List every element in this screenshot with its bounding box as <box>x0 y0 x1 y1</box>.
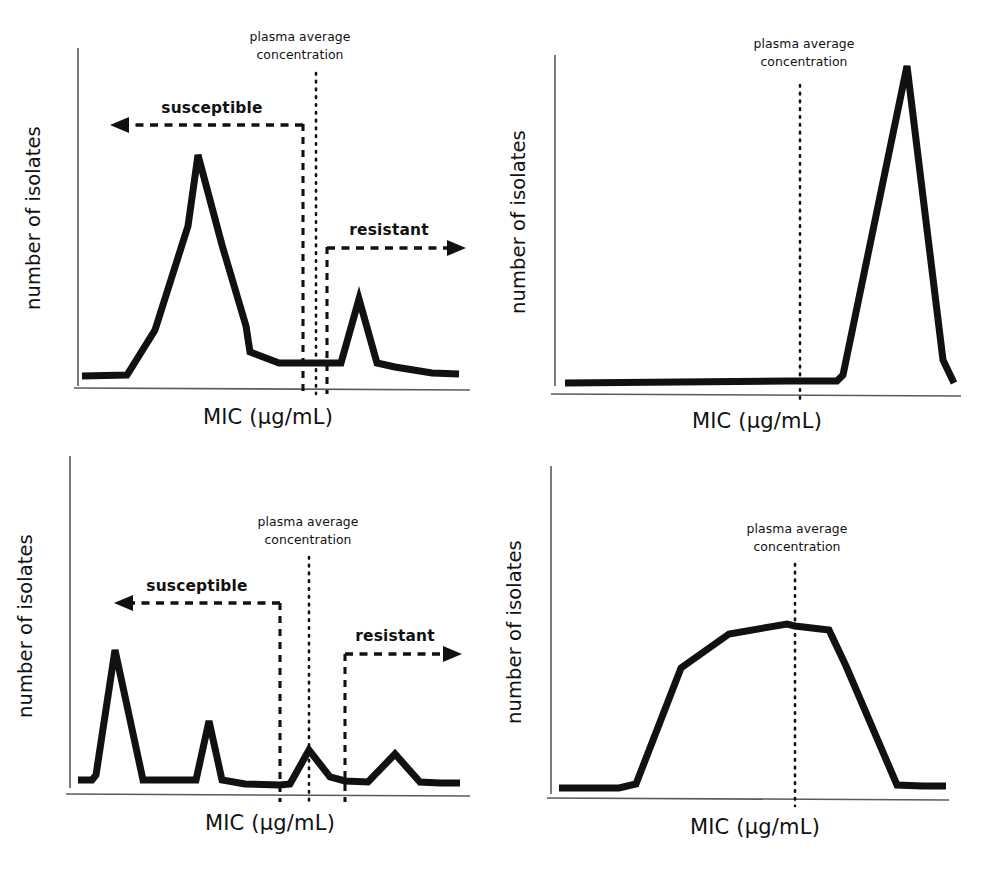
panel-top-right: plasma average concentration MIC (μg/mL)… <box>499 0 998 436</box>
resistant-arrowhead-icon <box>447 240 466 256</box>
plasma-label-line1: plasma average <box>746 521 847 536</box>
plasma-label-line2: concentration <box>264 532 351 547</box>
resistant-zone-label: resistant <box>355 627 434 645</box>
susceptible-zone-label: susceptible <box>146 577 247 595</box>
plasma-label-line2: concentration <box>753 539 840 554</box>
plasma-label-line2: concentration <box>256 47 343 62</box>
y-axis-label: number of isolates <box>22 126 45 310</box>
plasma-label-line1: plasma average <box>249 29 350 44</box>
x-axis-line <box>547 798 949 800</box>
susceptible-arrowhead-icon <box>114 595 133 611</box>
y-axis-label: number of isolates <box>503 540 526 724</box>
x-axis-line <box>551 394 961 396</box>
panel-top-left: plasma average concentration susceptible… <box>0 0 499 436</box>
susceptible-arrowhead-icon <box>110 117 129 133</box>
x-axis-line <box>66 794 470 796</box>
panel-bottom-right: plasma average concentration MIC (μg/mL)… <box>499 436 998 872</box>
x-axis-label: MIC (μg/mL) <box>690 815 820 839</box>
x-axis-label: MIC (μg/mL) <box>203 405 333 429</box>
isolate-distribution-curve <box>78 650 460 785</box>
panel-bottom-left: plasma average concentration susceptible… <box>0 436 499 872</box>
x-axis-line <box>74 388 470 390</box>
plasma-label-line2: concentration <box>760 54 847 69</box>
susceptible-zone-label: susceptible <box>161 99 262 117</box>
resistant-arrowhead-icon <box>443 646 462 662</box>
mic-distribution-figure: plasma average concentration susceptible… <box>0 0 998 872</box>
isolate-distribution-curve <box>559 624 946 788</box>
resistant-zone-label: resistant <box>349 221 428 239</box>
isolate-distribution-curve <box>565 66 954 383</box>
plasma-label-line1: plasma average <box>753 36 854 51</box>
isolate-distribution-curve <box>82 155 459 376</box>
y-axis-label: number of isolates <box>14 534 37 718</box>
x-axis-label: MIC (μg/mL) <box>205 811 335 835</box>
plasma-label-line1: plasma average <box>257 514 358 529</box>
x-axis-label: MIC (μg/mL) <box>692 409 822 433</box>
y-axis-label: number of isolates <box>507 130 530 314</box>
